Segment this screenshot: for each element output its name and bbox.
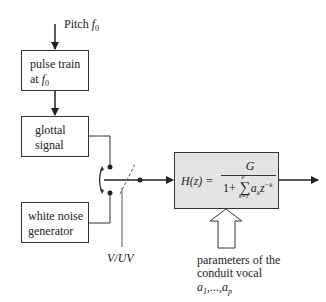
pulse-train-box: pulse train at f0	[21, 50, 89, 91]
switch-contact-voiced	[108, 165, 113, 170]
vuv-label: V/UV	[107, 251, 134, 265]
params-line2: conduit vocal	[197, 266, 262, 280]
pitch-label: Pitch f0	[64, 17, 99, 36]
coeff-ellipsis: ,...,	[207, 280, 222, 294]
noise-line1: white noise	[28, 209, 83, 223]
glottal-signal-box: glottal signal	[21, 116, 89, 157]
switch-contact-unvoiced	[108, 191, 113, 196]
pulse-sub: 0	[45, 79, 49, 88]
fraction-bar	[221, 175, 276, 176]
sum-symbol: p ∑ k=1	[239, 179, 251, 196]
term-exp: −k	[265, 181, 273, 189]
parameters-input-arrow	[210, 209, 242, 248]
denom-one-plus: 1+	[223, 181, 236, 195]
noise-to-switch-line	[89, 194, 110, 223]
coeff-sub2: p	[228, 287, 232, 296]
switch-junction	[138, 178, 143, 183]
glottal-line1: glottal	[35, 123, 66, 137]
sum-upper: p	[242, 173, 245, 179]
switch-toggle-icon	[100, 168, 103, 192]
pitch-sub: 0	[95, 24, 99, 33]
params-line1: parameters of the	[197, 253, 280, 267]
white-noise-box: white noise generator	[21, 202, 89, 243]
filter-numerator: G	[225, 159, 275, 174]
glottal-line2: signal	[35, 138, 64, 152]
pulse-at: at	[30, 72, 39, 86]
sum-lower: k=1	[239, 193, 249, 199]
pitch-text: Pitch	[64, 17, 89, 31]
noise-line2: generator	[28, 224, 73, 238]
pulse-line1: pulse train	[30, 57, 80, 71]
glottal-to-switch-line	[89, 136, 110, 166]
filter-denominator: 1+ p ∑ k=1 akz−k	[223, 179, 272, 197]
filter-lhs: H(z) =	[181, 174, 213, 189]
pulse-line2: at f0	[30, 72, 49, 91]
params-coeffs: a1,...,ap	[197, 280, 232, 299]
filter-box: H(z) = G 1+ p ∑ k=1 akz−k	[174, 152, 279, 209]
